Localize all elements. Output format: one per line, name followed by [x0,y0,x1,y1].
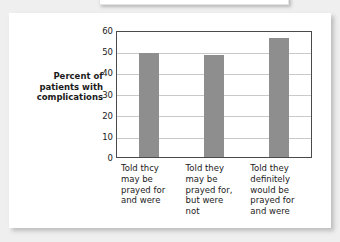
y-tick-50: 50 [93,48,113,57]
bar-slot-1 [117,32,182,157]
category-label-2-line-3: prayed for, [186,185,247,196]
category-label-2-line-5: not [186,206,247,217]
category-label-3-line-3: would be [250,185,311,196]
category-label-2-line-1: Told they [186,163,247,174]
category-label-1: Told thcy may be prayed for and were [117,163,182,206]
bar-slot-2 [182,32,247,157]
category-label-3: Told they definitely would be prayed for… [246,163,311,217]
y-tick-10: 10 [93,133,113,142]
category-label-1-line-4: and were [121,195,182,206]
y-axis-tick-labels: 60 50 40 30 20 10 0 [89,31,113,158]
bar-series [117,32,311,157]
bar-told-definitely-would-be-prayed-for-and-were [269,38,289,157]
category-label-2-line-2: may be [186,174,247,185]
figure-card: Percent of patients with complications 6… [9,13,331,228]
category-label-3-line-4: prayed for [250,195,311,206]
cropped-panel-above [99,0,289,5]
category-label-3-line-5: and were [250,206,311,217]
y-tick-20: 20 [93,112,113,121]
y-tick-30: 30 [93,91,113,100]
category-label-2: Told they may be prayed for, but were no… [182,163,247,217]
bar-slot-3 [246,32,311,157]
category-label-1-line-3: prayed for [121,185,182,196]
category-label-2-line-4: but were [186,195,247,206]
category-label-3-line-2: definitely [250,174,311,185]
x-axis-category-labels: Told thcy may be prayed for and were Tol… [117,163,311,225]
category-label-1-line-1: Told thcy [121,163,182,174]
bar-chart: Percent of patients with complications 6… [9,13,331,228]
y-tick-60: 60 [93,27,113,36]
bar-told-may-be-prayed-for-but-were-not [204,55,224,157]
bar-told-may-be-prayed-for-and-were [139,53,159,157]
y-tick-0: 0 [93,154,113,163]
category-label-1-line-2: may be [121,174,182,185]
category-label-3-line-1: Told they [250,163,311,174]
y-tick-40: 40 [93,69,113,78]
